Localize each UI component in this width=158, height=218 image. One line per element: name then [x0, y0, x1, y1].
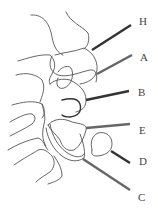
pointer-line-a	[97, 55, 132, 74]
label-h: H	[139, 16, 147, 27]
label-c: C	[138, 192, 145, 203]
pointer-line-d	[111, 151, 130, 163]
pointer-line-h	[92, 25, 131, 50]
pointer-line-c	[83, 159, 130, 190]
label-b: B	[138, 87, 145, 98]
pointer-line-e	[86, 124, 130, 128]
pointer-line-b	[86, 91, 129, 100]
label-d: D	[139, 156, 147, 167]
label-a: A	[140, 52, 148, 63]
wrist-bones-diagram	[0, 0, 158, 218]
label-e: E	[139, 125, 146, 136]
pointer-lines	[83, 25, 132, 190]
